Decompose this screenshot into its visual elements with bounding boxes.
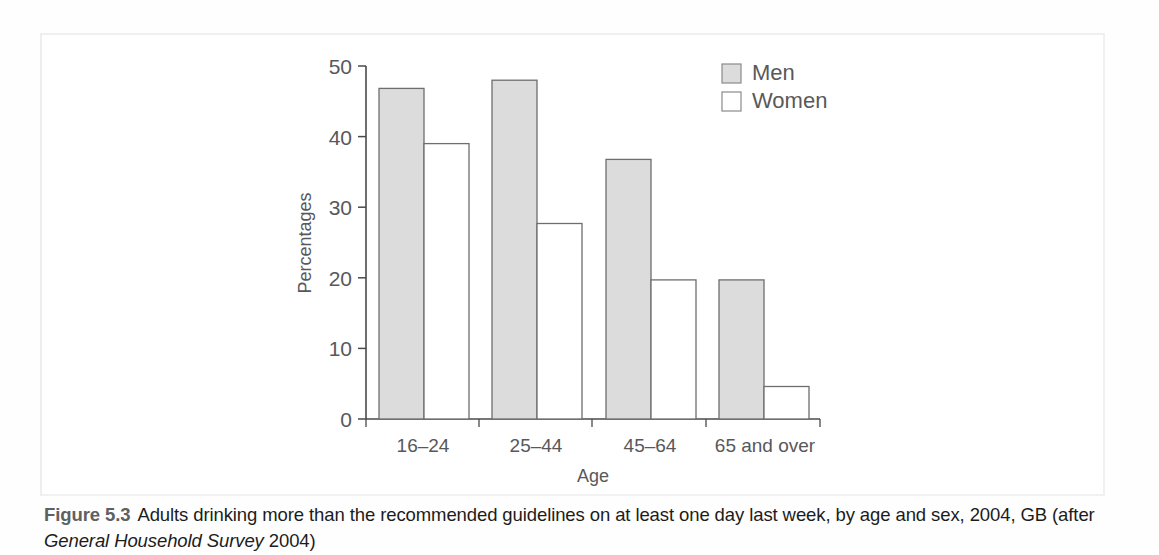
bar-women-25-44 [537,224,582,420]
y-tick-label-20: 20 [329,267,352,290]
bar-women-45-64 [651,280,696,419]
x-tick-label-65-and-over: 65 and over [715,435,816,456]
legend-label-women: Women [752,88,827,113]
bar-men-16-24 [379,88,424,419]
x-tick-label-25-44: 25–44 [510,435,563,456]
bar-women-16-24 [424,144,469,419]
chart-legend: Men Women [722,60,827,113]
x-axis-ticks [366,419,820,427]
y-tick-label-10: 10 [329,337,352,360]
y-axis-ticks [358,66,366,419]
y-axis-title: Percentages [295,192,315,293]
bar-men-45-64 [606,159,651,419]
y-tick-label-0: 0 [340,408,352,431]
figure-caption-text: Adults drinking more than the recommende… [137,504,1094,525]
figure-number: Figure 5.3 [44,504,130,525]
figure-caption: Figure 5.3Adults drinking more than the … [44,502,1119,555]
y-tick-label-50: 50 [329,55,352,78]
legend-label-men: Men [752,60,795,85]
legend-swatch-women-icon [722,92,741,111]
bar-chart: 0 10 20 30 40 50 Percentages [0,0,1159,495]
figure-caption-source: General Household Survey [44,530,264,551]
bar-men-65-and-over [719,280,764,419]
chart-canvas: 0 10 20 30 40 50 Percentages [0,0,1159,495]
x-tick-label-45-64: 45–64 [624,435,677,456]
x-tick-label-16-24: 16–24 [397,435,450,456]
bar-women-65-and-over [764,387,809,420]
y-tick-label-30: 30 [329,196,352,219]
figure-caption-tail: 2004) [264,530,316,551]
y-tick-label-40: 40 [329,126,352,149]
legend-swatch-men-icon [722,64,741,83]
x-axis-title: Age [577,466,609,486]
bar-men-25-44 [492,80,537,419]
